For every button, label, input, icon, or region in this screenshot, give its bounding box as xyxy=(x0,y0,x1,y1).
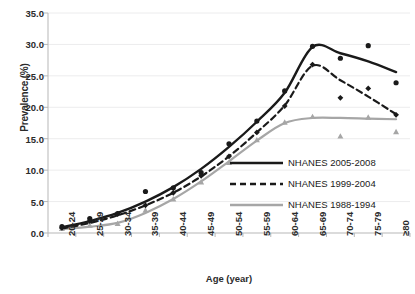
y-axis-tick-label: 35.0 xyxy=(4,8,44,19)
data-point xyxy=(199,170,204,175)
data-point xyxy=(226,141,231,146)
x-axis-tick-label: 60-64 xyxy=(289,212,300,236)
data-point xyxy=(87,216,92,221)
legend-item-2: NHANES 1988-1994 xyxy=(288,199,376,210)
data-point xyxy=(171,185,176,190)
prevalence-by-age-chart: Prevalence (%) Age (year) 0.05.010.015.0… xyxy=(0,0,415,294)
y-axis-tick-label: 20.0 xyxy=(4,102,44,113)
x-axis-tick-label: 75-79 xyxy=(372,212,383,236)
data-point xyxy=(282,88,287,93)
data-point xyxy=(59,224,64,229)
data-point xyxy=(338,56,343,61)
y-axis-tick-label: 25.0 xyxy=(4,70,44,81)
x-axis-tick-label: 55-59 xyxy=(261,212,272,236)
data-point xyxy=(337,95,343,101)
x-axis-tick-label: 30-34 xyxy=(122,212,133,236)
y-axis-tick-label: 30.0 xyxy=(4,39,44,50)
data-point xyxy=(365,114,371,119)
x-axis-tick-label: 35-39 xyxy=(149,212,160,236)
data-point xyxy=(310,44,315,49)
x-axis-title: Age (year) xyxy=(48,273,410,284)
x-axis-tick-label: 70-74 xyxy=(344,212,355,236)
y-axis-tick-label: 5.0 xyxy=(4,196,44,207)
x-axis-tick-label: 50-54 xyxy=(233,212,244,236)
data-point xyxy=(365,86,371,92)
y-axis-tick-label: 0.0 xyxy=(4,228,44,239)
data-point xyxy=(143,189,148,194)
x-axis-tick-label: 25-29 xyxy=(94,212,105,236)
data-point xyxy=(254,119,259,124)
data-point xyxy=(337,133,343,138)
x-axis-tick-label: 20-24 xyxy=(66,212,77,236)
plot-canvas xyxy=(0,0,415,294)
y-axis-tick-label: 10.0 xyxy=(4,165,44,176)
data-point xyxy=(115,211,120,216)
data-point xyxy=(393,129,399,134)
data-point xyxy=(366,43,371,48)
data-point xyxy=(310,114,316,119)
y-axis-tick-labels: 0.05.010.015.020.025.030.035.0 xyxy=(0,0,44,294)
x-axis-tick-label: 65-69 xyxy=(317,212,328,236)
legend-item-1: NHANES 1999-2004 xyxy=(288,178,376,189)
x-axis-tick-label: 40-44 xyxy=(177,212,188,236)
data-point xyxy=(393,80,398,85)
x-axis-tick-label: ≥80 xyxy=(400,220,411,236)
y-axis-tick-label: 15.0 xyxy=(4,133,44,144)
legend-item-0: NHANES 2005-2008 xyxy=(288,157,376,168)
x-axis-tick-label: 45-49 xyxy=(205,212,216,236)
